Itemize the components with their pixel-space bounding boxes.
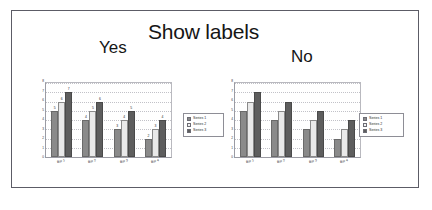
x-axis-tick-label: Bar 1	[56, 159, 67, 173]
bar: 6	[96, 102, 103, 158]
bar-value-label: 6	[99, 98, 101, 101]
bars-layer: 567456345234	[46, 83, 171, 157]
x-axis: Bar 1Bar 2Bar 3Bar 4	[235, 158, 361, 172]
x-axis-tick-label: Bar 3	[308, 159, 319, 173]
y-axis-tick-label: 2	[42, 137, 44, 140]
y-axis: 012345678	[225, 82, 234, 158]
x-axis: Bar 1Bar 2Bar 3Bar 4	[46, 158, 172, 172]
y-axis-tick-label: 7	[231, 90, 233, 93]
bar-value-label: 5	[92, 107, 94, 110]
bars-layer	[235, 83, 360, 157]
y-axis-tick-label: 7	[42, 90, 44, 93]
bar-value-label: 3	[116, 125, 118, 128]
bar: 5	[51, 111, 58, 157]
y-axis-tick-label: 0	[231, 156, 233, 159]
legend-item-label: Series 2	[369, 123, 382, 127]
bar: 7	[65, 92, 72, 157]
bar: 3	[114, 129, 121, 157]
y-axis-tick-label: 3	[231, 128, 233, 131]
bar-group: 567	[51, 83, 72, 157]
bar-value-label: 7	[68, 88, 70, 91]
x-axis-tick-label: Bar 4	[340, 159, 351, 173]
y-axis-tick-label: 6	[42, 99, 44, 102]
x-axis-tick-label: Bar 1	[245, 159, 256, 173]
legend-swatch-icon	[363, 117, 367, 121]
bar	[278, 111, 285, 157]
bar	[247, 102, 254, 158]
bar: 2	[145, 139, 152, 158]
chart-without-labels: 012345678 Bar 1Bar 2Bar 3Bar 4	[225, 80, 361, 176]
y-axis-tick-label: 2	[231, 137, 233, 140]
bar: 5	[89, 111, 96, 157]
y-axis-tick-label: 1	[42, 147, 44, 150]
x-axis-tick-label: Bar 3	[119, 159, 130, 173]
legend-item-label: Series 1	[369, 117, 382, 121]
legend-swatch-icon	[363, 123, 367, 127]
legend-swatch-icon	[187, 123, 191, 127]
bar	[317, 111, 324, 157]
plot-wrapper: 012345678 Bar 1Bar 2Bar 3Bar 4	[225, 80, 361, 176]
bar: 4	[121, 120, 128, 157]
caption-no: No	[291, 47, 313, 67]
bar	[341, 129, 348, 157]
bar: 6	[58, 102, 65, 158]
bar-value-label: 4	[85, 116, 87, 119]
bar-group	[334, 83, 355, 157]
bar-value-label: 3	[154, 125, 156, 128]
bar-value-label: 6	[61, 98, 63, 101]
bar-value-label: 5	[54, 107, 56, 110]
bar-group: 234	[145, 83, 166, 157]
plot-wrapper: 012345678 567456345234 Bar 1Bar 2Bar 3Ba…	[36, 80, 172, 176]
bar: 5	[128, 111, 135, 157]
legend-item-label: Series 3	[193, 129, 206, 133]
chart-with-labels: 012345678 567456345234 Bar 1Bar 2Bar 3Ba…	[36, 80, 172, 176]
bar	[303, 129, 310, 157]
legend-item-label: Series 3	[369, 129, 382, 133]
bar	[285, 102, 292, 158]
y-axis: 012345678	[36, 82, 45, 158]
legend-item: Series 3	[187, 128, 220, 134]
legend-swatch-icon	[187, 117, 191, 121]
bar: 4	[159, 120, 166, 157]
legend-swatch-icon	[187, 129, 191, 133]
y-axis-tick-label: 4	[42, 118, 44, 121]
y-axis-tick-label: 6	[231, 99, 233, 102]
y-axis-tick-label: 8	[42, 80, 44, 83]
bar-value-label: 4	[161, 116, 163, 119]
legend-item-label: Series 2	[193, 123, 206, 127]
chart-legend: Series 1Series 2Series 3	[183, 113, 224, 137]
bar-value-label: 2	[147, 135, 149, 138]
bar: 3	[152, 129, 159, 157]
bar	[334, 139, 341, 158]
x-axis-tick-label: Bar 2	[88, 159, 99, 173]
bar: 4	[82, 120, 89, 157]
page-title: Show labels	[148, 20, 259, 44]
bar	[240, 111, 247, 157]
bar-group	[303, 83, 324, 157]
bar-group: 345	[114, 83, 135, 157]
bar	[348, 120, 355, 157]
legend-swatch-icon	[363, 129, 367, 133]
y-axis-tick-label: 4	[231, 118, 233, 121]
y-axis-tick-label: 5	[42, 109, 44, 112]
y-axis-tick-label: 8	[231, 80, 233, 83]
bar-value-label: 5	[130, 107, 132, 110]
legend-item: Series 3	[363, 128, 400, 134]
caption-yes: Yes	[99, 38, 127, 58]
legend-item-label: Series 1	[193, 117, 206, 121]
y-axis-tick-label: 1	[231, 147, 233, 150]
chart-legend: Series 1Series 2Series 3	[359, 113, 404, 137]
bar-group: 456	[82, 83, 103, 157]
bar-group	[240, 83, 261, 157]
y-axis-tick-label: 3	[42, 128, 44, 131]
bar	[254, 92, 261, 157]
slide: Show labels Yes No 012345678 56745634523…	[0, 0, 432, 210]
bar-group	[271, 83, 292, 157]
y-axis-tick-label: 5	[231, 109, 233, 112]
bar-value-label: 4	[123, 116, 125, 119]
bar	[271, 120, 278, 157]
x-axis-tick-label: Bar 4	[151, 159, 162, 173]
y-axis-tick-label: 0	[42, 156, 44, 159]
bar	[310, 120, 317, 157]
x-axis-tick-label: Bar 2	[277, 159, 288, 173]
